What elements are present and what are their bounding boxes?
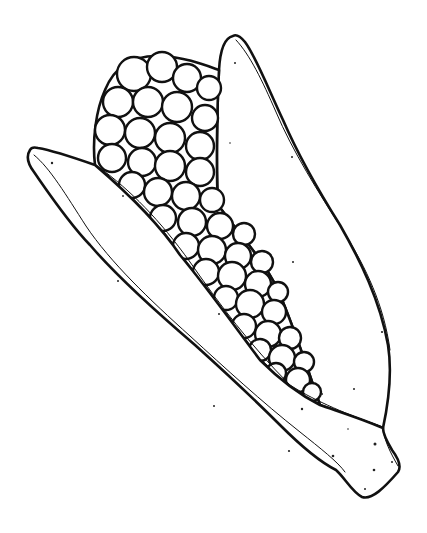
corn-drawing (0, 0, 427, 533)
